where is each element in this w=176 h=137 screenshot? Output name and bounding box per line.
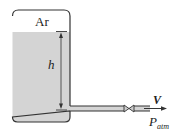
outlet-pipe — [70, 106, 124, 111]
height-label: h — [48, 57, 55, 72]
tank-diagram: Ar h V Patm — [0, 0, 176, 137]
gas-label: Ar — [35, 14, 49, 29]
velocity-label: V — [153, 93, 162, 107]
pressure-subscript: atm — [157, 122, 169, 131]
valve-icon — [124, 105, 134, 112]
pressure-label: Patm — [148, 114, 169, 131]
pressure-symbol: P — [148, 114, 157, 129]
